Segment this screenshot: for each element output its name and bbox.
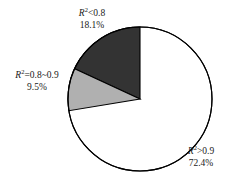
pie-chart-figure: R2<0.8 18.1% R2=0.8~0.9 9.5% R2>0.9 72.4… [0,0,240,188]
slice-label-r2-gt-0-9: R2>0.9 72.4% [172,146,230,169]
slice-label-r2-lt-0-8-value: 18.1% [66,20,118,32]
slice-label-r2-lt-0-8: R2<0.8 18.1% [66,8,118,31]
slice-label-r2-0-8-to-0-9: R2=0.8~0.9 9.5% [4,70,70,93]
slice-label-r2-0-8-to-0-9-category: R2=0.8~0.9 [4,70,70,82]
slice-label-r2-0-8-to-0-9-value: 9.5% [4,82,70,94]
slice-label-r2-gt-0-9-value: 72.4% [172,158,230,170]
slice-label-r2-gt-0-9-category: R2>0.9 [172,146,230,158]
slice-label-r2-lt-0-8-category: R2<0.8 [66,8,118,20]
